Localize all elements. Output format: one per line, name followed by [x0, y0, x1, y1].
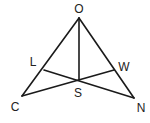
- label-S: S: [74, 86, 82, 100]
- segment-CW: [22, 70, 114, 96]
- segment-NL: [44, 70, 134, 98]
- label-N: N: [137, 101, 146, 115]
- label-O: O: [74, 2, 83, 16]
- label-L: L: [30, 55, 37, 69]
- label-C: C: [11, 100, 20, 114]
- label-W: W: [118, 60, 130, 74]
- segment-ON: [79, 18, 134, 98]
- triangle-diagram: O C N L W S: [0, 0, 150, 123]
